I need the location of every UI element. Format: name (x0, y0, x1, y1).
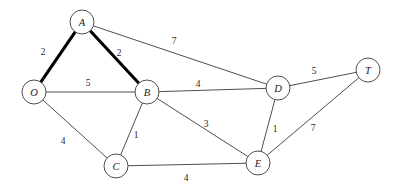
node-d[interactable]: D (266, 76, 290, 100)
edge-weight-b-e: 3 (204, 119, 209, 129)
edge-b-c (121, 103, 143, 155)
node-label-o: O (30, 87, 38, 98)
node-label-a: A (78, 17, 86, 28)
edge-weights-layer: 227541434157 (41, 36, 317, 183)
edge-weight-c-e: 4 (184, 173, 189, 183)
node-label-b: B (144, 87, 151, 98)
edge-weight-b-c: 1 (134, 130, 139, 140)
edge-weight-o-c: 4 (61, 136, 66, 146)
edge-o-a (41, 32, 75, 82)
edge-o-c (43, 100, 107, 158)
edge-weight-d-e: 1 (273, 124, 278, 134)
edge-b-e (157, 98, 248, 156)
node-t[interactable]: T (356, 58, 380, 82)
node-c[interactable]: C (104, 154, 128, 178)
edge-c-e (128, 163, 246, 165)
edge-weight-o-a: 2 (41, 47, 46, 57)
edge-weight-d-t: 5 (312, 66, 317, 76)
edge-weight-a-b: 2 (117, 48, 122, 58)
graph-figure: OABCDET 227541434157 (0, 0, 398, 191)
node-o[interactable]: O (22, 80, 46, 104)
node-label-d: D (273, 83, 282, 94)
node-label-c: C (112, 161, 120, 172)
node-label-e: E (254, 158, 262, 169)
edge-weight-e-t: 7 (311, 123, 316, 133)
node-e[interactable]: E (246, 151, 270, 175)
edge-weight-o-b: 5 (86, 78, 91, 88)
node-b[interactable]: B (135, 80, 159, 104)
node-a[interactable]: A (70, 10, 94, 34)
nodes-layer: OABCDET (22, 10, 380, 178)
edge-b-d (159, 88, 266, 91)
edges-layer (41, 26, 359, 166)
edge-d-t (290, 72, 356, 85)
edge-weight-b-d: 4 (196, 79, 201, 89)
graph-canvas: OABCDET 227541434157 (0, 0, 398, 191)
edge-weight-a-d: 7 (172, 36, 177, 46)
